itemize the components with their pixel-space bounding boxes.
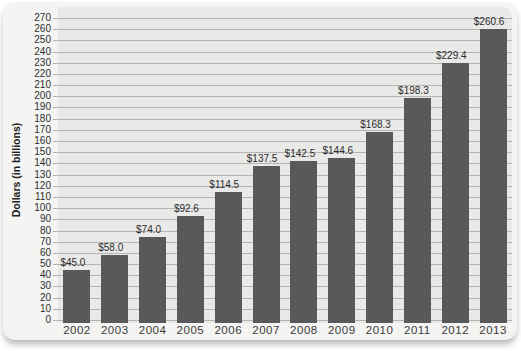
grid-line — [53, 18, 512, 19]
y-tick-label: 30 — [0, 281, 51, 291]
x-axis-ticks: 2002200320042005200620072008200920102011… — [58, 324, 512, 340]
bar-value-label: $260.6 — [447, 16, 521, 27]
y-tick-label: 230 — [0, 58, 51, 68]
bar-2004 — [139, 237, 166, 323]
y-tick-label: 150 — [0, 147, 51, 157]
y-tick-label: 70 — [0, 237, 51, 247]
y-tick-label: 240 — [0, 47, 51, 57]
bar-2011 — [404, 98, 431, 323]
y-tick-label: 120 — [0, 181, 51, 191]
y-tick-label: 260 — [0, 24, 51, 34]
y-tick-label: 90 — [0, 214, 51, 224]
x-tick-label: 2013 — [465, 324, 521, 336]
y-tick-label: 180 — [0, 114, 51, 124]
y-tick-label: 20 — [0, 293, 51, 303]
chart-card: Dollars (in billions) 010203040506070809… — [3, 2, 517, 340]
y-tick-label: 210 — [0, 80, 51, 90]
bar-2009 — [328, 158, 355, 323]
y-tick-label: 270 — [0, 13, 51, 23]
y-tick-label: 170 — [0, 125, 51, 135]
bar-2005 — [177, 216, 204, 323]
bar-2007 — [253, 166, 280, 323]
y-tick-label: 10 — [0, 304, 51, 314]
y-axis-ticks: 0102030405060708090100110120130140150160… — [3, 7, 54, 323]
bar-2013 — [480, 29, 507, 323]
y-tick-label: 220 — [0, 69, 51, 79]
y-tick-label: 140 — [0, 158, 51, 168]
bar-2003 — [101, 255, 128, 323]
y-tick-label: 190 — [0, 102, 51, 112]
bar-2012 — [442, 63, 469, 323]
bar-2006 — [215, 192, 242, 323]
y-tick-label: 0 — [0, 315, 51, 325]
y-tick-label: 130 — [0, 170, 51, 180]
y-tick-label: 40 — [0, 270, 51, 280]
bar-chart: Dollars (in billions) 010203040506070809… — [0, 0, 521, 351]
y-tick-label: 200 — [0, 91, 51, 101]
y-tick-label: 110 — [0, 192, 51, 202]
y-tick-label: 100 — [0, 203, 51, 213]
y-tick-label: 250 — [0, 35, 51, 45]
bar-2002 — [63, 270, 90, 323]
bar-2008 — [290, 161, 317, 323]
y-tick-label: 160 — [0, 136, 51, 146]
grid-line — [53, 29, 512, 30]
grid-line — [53, 40, 512, 41]
bar-2010 — [366, 132, 393, 323]
plot-area: $45.0$58.0$74.0$92.6$114.5$137.5$142.5$1… — [58, 7, 512, 323]
y-tick-label: 80 — [0, 226, 51, 236]
